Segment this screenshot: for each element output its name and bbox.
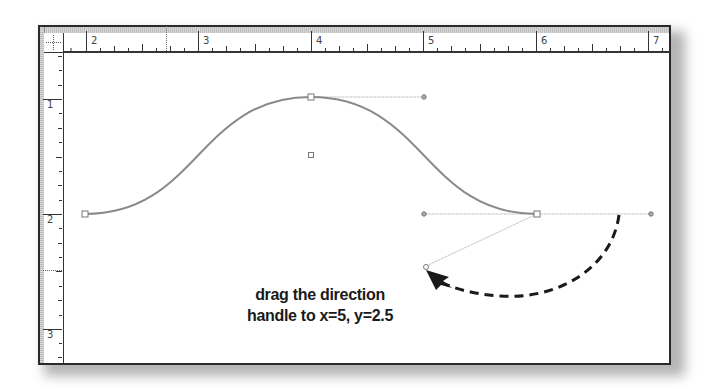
end-anchor-point[interactable] — [534, 211, 540, 217]
peak-anchor-point[interactable] — [308, 94, 314, 100]
center-point — [309, 153, 314, 158]
horizontal-ruler-ticks — [62, 31, 671, 52]
dragged-handle-line — [424, 214, 537, 267]
peak-handle-point[interactable] — [422, 95, 426, 99]
direction-handle-lines — [311, 97, 651, 267]
vertical-ruler-ticks — [43, 57, 62, 358]
drag-arrow-path — [441, 215, 619, 296]
instruction-callout: drag the direction handle to x=5, y=2.5 — [200, 284, 440, 326]
end-handle-right-point[interactable] — [649, 212, 653, 216]
start-anchor-point[interactable] — [82, 211, 88, 217]
end-handle-left-point[interactable] — [422, 212, 426, 216]
artboard — [0, 0, 712, 388]
instruction-line-1: drag the direction — [200, 284, 440, 305]
crosshair-icon — [44, 33, 63, 52]
ruler-origin-corner[interactable] — [44, 33, 64, 53]
dragged-handle-point[interactable] — [424, 265, 429, 270]
instruction-line-2: handle to x=5, y=2.5 — [200, 305, 440, 326]
